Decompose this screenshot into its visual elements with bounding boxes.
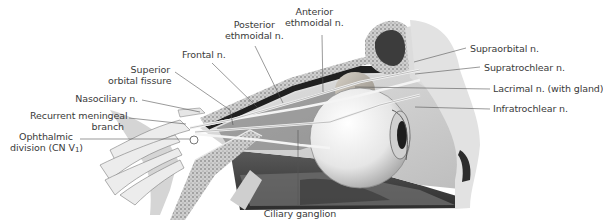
label-line-2: ethmoidal n. xyxy=(225,30,284,41)
label-supratrochlear-nerve: Supratrochlear n. xyxy=(484,62,565,73)
label-text: Supratrochlear n. xyxy=(484,62,565,73)
label-line-2: division (CN V1) xyxy=(10,142,82,153)
label-recurrent-meningeal-branch: Recurrent meningeal branch xyxy=(30,110,124,132)
label-lacrimal-nerve: Lacrimal n. (with gland) xyxy=(493,83,603,94)
label-superior-orbital-fissure: Superior orbital fissure xyxy=(108,64,170,86)
label-line-2: orbital fissure xyxy=(108,75,170,86)
label-ophthalmic-division: Ophthalmic division (CN V1) xyxy=(10,131,82,153)
label-text: Infratrochlear n. xyxy=(493,103,568,114)
label-line-1: Superior xyxy=(108,64,170,75)
clinoid-fragment xyxy=(178,108,205,117)
label-line-1: Anterior xyxy=(285,6,344,17)
label-text: Ciliary ganglion xyxy=(264,208,336,219)
label-line-1: Recurrent meningeal xyxy=(30,110,124,121)
label-line-2: ethmoidal n. xyxy=(285,17,344,28)
label-frontal-nerve: Frontal n. xyxy=(182,49,226,60)
label-anterior-ethmoidal-nerve: Anterior ethmoidal n. xyxy=(285,6,344,28)
label-text: Frontal n. xyxy=(182,49,226,60)
anatomy-figure: Anterior ethmoidal n. Posterior ethmoida… xyxy=(0,0,603,223)
label-text: ) xyxy=(79,142,83,153)
label-text: Nasociliary n. xyxy=(75,93,138,104)
label-nasociliary-nerve: Nasociliary n. xyxy=(70,93,138,104)
label-supraorbital-nerve: Supraorbital n. xyxy=(470,43,539,54)
label-text: Lacrimal n. (with gland) xyxy=(493,83,603,94)
label-line-1: Ophthalmic xyxy=(10,131,82,142)
label-ciliary-ganglion: Ciliary ganglion xyxy=(258,208,342,219)
ophthalmic-ring xyxy=(190,136,198,144)
label-line-1: Posterior xyxy=(225,19,284,30)
trigeminal-root xyxy=(100,120,190,205)
label-posterior-ethmoidal-nerve: Posterior ethmoidal n. xyxy=(225,19,284,41)
label-text: Supraorbital n. xyxy=(470,43,539,54)
label-text: division (CN V xyxy=(10,142,75,153)
label-infratrochlear-nerve: Infratrochlear n. xyxy=(493,103,568,114)
